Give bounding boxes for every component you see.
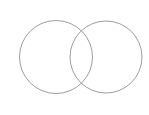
right-circle <box>70 21 142 93</box>
left-circle <box>20 21 93 94</box>
venn-diagram <box>0 0 149 115</box>
